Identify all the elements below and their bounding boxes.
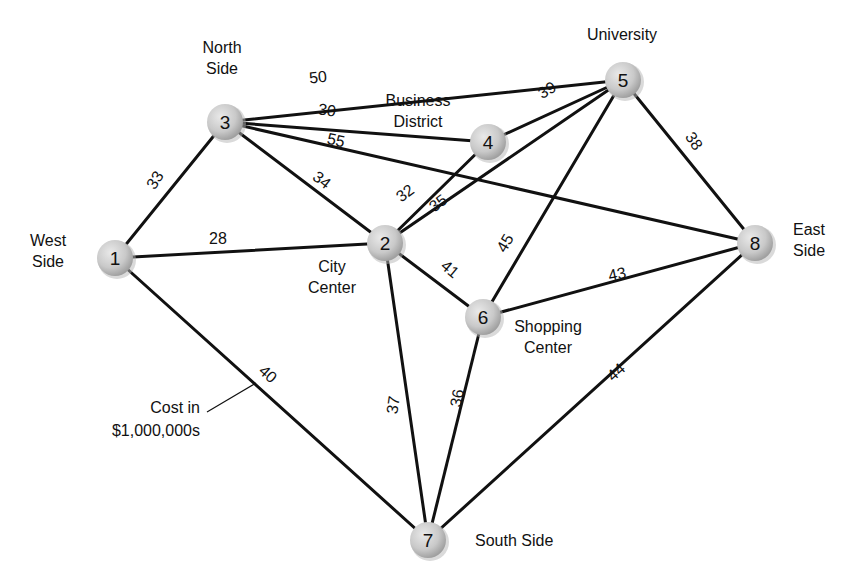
node-number: 6 [478, 307, 489, 328]
node-number: 4 [483, 132, 494, 153]
edge-weight-2-7: 37 [383, 395, 402, 415]
node-label-4: District [394, 113, 443, 130]
node-number: 8 [750, 233, 761, 254]
node-number: 2 [380, 233, 391, 254]
edge-weight-5-8: 38 [682, 129, 706, 153]
edges [115, 80, 755, 540]
edge-weight-3-5: 50 [308, 68, 328, 87]
edge-6-7 [428, 317, 483, 540]
edge-weight-6-8: 43 [607, 264, 628, 284]
node-label-7: South Side [475, 532, 553, 549]
node-number: 1 [110, 248, 121, 269]
node-label-5: University [587, 26, 657, 43]
node-label-8: East [793, 221, 826, 238]
node-label-8: Side [793, 242, 825, 259]
node-label-2: City [318, 258, 346, 275]
node-number: 3 [220, 112, 231, 133]
network-diagram: 3328405030553439323538414543373644 12345… [0, 0, 860, 581]
node-number: 7 [423, 530, 434, 551]
node-label-1: West [30, 232, 67, 249]
node-label-3: Side [206, 60, 238, 77]
node-label-6: Center [524, 339, 573, 356]
node-6: 6 [465, 299, 504, 338]
edge-weight-3-4: 30 [317, 100, 337, 119]
node-4: 4 [470, 124, 509, 163]
node-label-1: Side [32, 253, 64, 270]
node-label-3: North [202, 39, 241, 56]
edge-weight-4-5: 39 [535, 78, 559, 102]
legend-leader-line [207, 383, 256, 412]
legend-line-2: $1,000,000s [112, 422, 200, 439]
edge-weight-6-7: 36 [447, 388, 467, 409]
node-label-4: Business [386, 92, 451, 109]
node-5: 5 [605, 62, 644, 101]
edge-weight-1-3: 33 [143, 168, 167, 192]
edge-weight-2-4: 32 [393, 181, 418, 205]
edge-2-7 [385, 243, 428, 540]
edge-weight-1-2: 28 [209, 230, 227, 247]
edge-weight-3-8: 55 [326, 130, 347, 150]
edge-6-5 [483, 80, 623, 317]
edge-weight-1-7: 40 [256, 362, 281, 387]
node-1: 1 [97, 240, 136, 279]
node-number: 5 [618, 70, 629, 91]
edge-weight-2-6: 41 [438, 257, 463, 282]
node-label-6: Shopping [514, 318, 582, 335]
node-8: 8 [737, 225, 776, 264]
cost-legend: Cost in $1,000,000s [112, 383, 256, 439]
legend-line-1: Cost in [150, 399, 200, 416]
edge-1-2 [115, 243, 385, 258]
edge-weight-6-5: 45 [493, 231, 517, 255]
node-label-2: Center [308, 279, 357, 296]
